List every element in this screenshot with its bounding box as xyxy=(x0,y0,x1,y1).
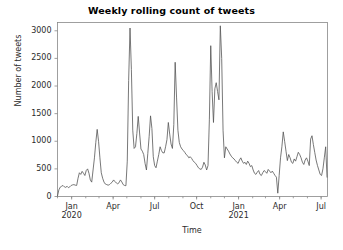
y-tick-label: 1500 xyxy=(18,109,52,118)
x-tick-label: Apr xyxy=(90,202,136,212)
tick-marks xyxy=(55,31,322,200)
y-tick-label: 1000 xyxy=(18,136,52,145)
data-series-line xyxy=(58,26,328,196)
y-tick-label: 3000 xyxy=(18,26,52,35)
chart-figure: Weekly rolling count of tweets Number of… xyxy=(0,0,343,250)
x-tick-label: Apr xyxy=(257,202,303,212)
x-tick-label: Jul xyxy=(132,202,178,212)
y-tick-label: 0 xyxy=(18,192,52,201)
x-tick-label: Jan2021 xyxy=(216,202,262,221)
y-tick-label: 2000 xyxy=(18,81,52,90)
plot-border xyxy=(58,23,328,197)
x-tick-label: Jul xyxy=(298,202,343,212)
y-tick-label: 500 xyxy=(18,164,52,173)
x-axis-label: Time xyxy=(57,226,327,235)
axes-frame xyxy=(58,23,328,197)
y-tick-label: 2500 xyxy=(18,53,52,62)
x-tick-label: Jan2020 xyxy=(49,202,95,221)
x-tick-label: Oct xyxy=(174,202,220,212)
